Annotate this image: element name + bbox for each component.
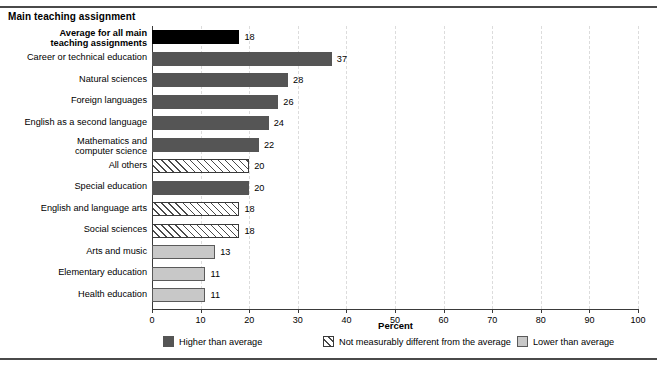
bar-value-label: 20 [254,161,264,171]
bar-value-label: 18 [244,32,254,42]
legend-swatch-lower [517,336,528,347]
bar [152,159,249,173]
tick-10 [201,309,202,313]
legend-label: Not measurably different from the averag… [339,337,511,347]
bar-row: Health education11 [0,286,657,308]
legend-item: Not measurably different from the averag… [323,336,511,347]
bar-value-label: 28 [293,75,303,85]
bar-category-label: Natural sciences [0,74,147,84]
bar [152,30,239,44]
chart-page: { "header": { "category_header": "Main t… [0,0,657,365]
bar-category-label: Elementary education [0,267,147,277]
bar [152,73,288,87]
bar-category-label: Career or technical education [0,52,147,62]
bar-category-label: English as a second language [0,117,147,127]
legend-item: Higher than average [163,336,262,347]
bar-row: Average for all main teaching assignment… [0,28,657,50]
tick-40 [346,309,347,313]
bar-category-label: Average for all main teaching assignment… [0,28,147,48]
bar-value-label: 26 [283,97,293,107]
bar-value-label: 37 [337,54,347,64]
legend-item: Lower than average [517,336,614,347]
legend-swatch-notdiff [323,336,334,347]
category-column-header: Main teaching assignment [8,11,135,22]
x-axis-title: Percent [152,320,639,331]
bar-value-label: 22 [264,140,274,150]
bar-row: Arts and music13 [0,243,657,265]
bar-row: Social sciences18 [0,222,657,244]
bar [152,181,249,195]
bar-value-label: 11 [210,269,220,279]
bar-category-label: Special education [0,181,147,191]
bar-row: Career or technical education37 [0,50,657,72]
tick-70 [492,309,493,313]
tick-90 [589,309,590,313]
bar [152,267,205,281]
bar-value-label: 13 [220,247,230,257]
legend-label: Higher than average [179,337,262,347]
tick-20 [249,309,250,313]
legend-swatch-higher [163,336,174,347]
chart-legend: Higher than averageNot measurably differ… [0,336,657,352]
bar-value-label: 20 [254,183,264,193]
bar-category-label: Arts and music [0,246,147,256]
bar-row: Natural sciences28 [0,71,657,93]
bar-row: English as a second language24 [0,114,657,136]
bar-value-label: 18 [244,204,254,214]
bar-row: Elementary education11 [0,265,657,287]
bar-category-label: Foreign languages [0,95,147,105]
bar-category-label: All others [0,160,147,170]
bar-row: Special education20 [0,179,657,201]
bar-category-label: English and language arts [0,203,147,213]
bar [152,52,332,66]
tick-100 [638,309,639,313]
bar-value-label: 11 [210,290,220,300]
bottom-divider [0,358,657,360]
tick-80 [541,309,542,313]
bar [152,95,278,109]
bar [152,245,215,259]
bar [152,116,269,130]
tick-50 [395,309,396,313]
bar [152,138,259,152]
bar-value-label: 24 [274,118,284,128]
bar-row: English and language arts18 [0,200,657,222]
bar [152,224,239,238]
tick-0 [152,309,153,313]
bar-category-label: Social sciences [0,224,147,234]
bar-row: All others20 [0,157,657,179]
top-divider [0,6,657,8]
bar [152,288,205,302]
bar-category-label: Health education [0,289,147,299]
tick-60 [444,309,445,313]
bar-row: Mathematics and computer science22 [0,136,657,158]
plot-area: Average for all main teaching assignment… [0,26,657,308]
bar [152,202,239,216]
bar-value-label: 18 [244,226,254,236]
bar-row: Foreign languages26 [0,93,657,115]
legend-label: Lower than average [533,337,614,347]
tick-30 [298,309,299,313]
bar-category-label: Mathematics and computer science [0,136,147,156]
